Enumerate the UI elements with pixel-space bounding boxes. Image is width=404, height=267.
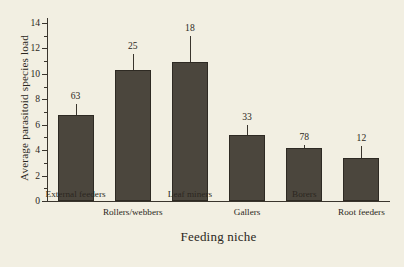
error-bar: [247, 125, 248, 135]
y-tick-major: [42, 125, 48, 126]
bar-value-label: 12: [357, 133, 367, 143]
bar-value-label: 33: [242, 112, 252, 122]
y-axis-title: Average parasitoid species load: [16, 3, 32, 213]
y-tick-major: [42, 176, 48, 177]
y-tick-major: [42, 150, 48, 151]
bar-value-label: 25: [128, 41, 138, 51]
bar-value-label: 63: [71, 91, 81, 101]
y-tick-minor: [44, 36, 48, 37]
error-bar: [361, 146, 362, 157]
y-tick-label: 6: [35, 120, 40, 130]
bar-value-label: 78: [299, 132, 309, 142]
y-tick-major: [42, 74, 48, 75]
x-axis-title: Feeding niche: [47, 229, 390, 245]
error-bar: [190, 36, 191, 63]
bar-value-label: 18: [185, 23, 195, 33]
bar: [172, 62, 208, 201]
y-tick-minor: [44, 163, 48, 164]
x-tick-label: Borers: [292, 190, 317, 199]
x-tick-label: Root feeders: [338, 208, 385, 217]
bar: [229, 135, 265, 201]
x-tick-label: Rollers/webbers: [103, 208, 163, 217]
y-tick-label: 8: [35, 94, 40, 104]
y-tick-label: 4: [35, 145, 40, 155]
figure: Average parasitoid species load 02468101…: [0, 0, 404, 267]
plot-area: 02468101214 632518337812: [47, 18, 390, 201]
y-axis-line: [47, 18, 48, 201]
y-tick-minor: [44, 137, 48, 138]
y-tick-major: [42, 99, 48, 100]
y-tick-minor: [44, 87, 48, 88]
y-tick-label: 12: [30, 44, 40, 54]
error-bar: [133, 54, 134, 71]
y-tick-label: 2: [35, 171, 40, 181]
y-tick-major: [42, 23, 48, 24]
y-tick-major: [42, 201, 48, 202]
y-tick-major: [42, 48, 48, 49]
x-tick-label: Gallers: [234, 208, 261, 217]
y-tick-minor: [44, 112, 48, 113]
y-tick-label: 0: [35, 196, 40, 206]
x-tick-label: External feeders: [46, 190, 106, 199]
y-tick-minor: [44, 61, 48, 62]
error-bar: [304, 145, 305, 148]
bar: [343, 158, 379, 201]
x-axis-line: [47, 201, 390, 202]
x-tick-label: Leaf miners: [168, 190, 212, 199]
bar: [115, 70, 151, 201]
error-bar: [76, 104, 77, 114]
y-tick-label: 10: [30, 69, 40, 79]
y-tick-label: 14: [30, 18, 40, 28]
